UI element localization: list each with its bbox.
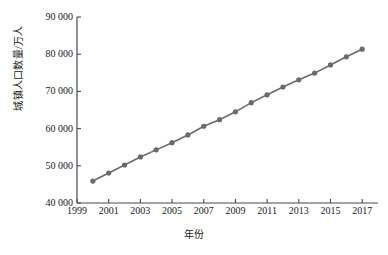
data-point bbox=[154, 147, 159, 152]
x-axis-title: 年份 bbox=[0, 229, 388, 241]
data-point bbox=[169, 140, 174, 145]
data-point bbox=[265, 92, 270, 97]
data-point bbox=[312, 71, 317, 76]
data-point bbox=[249, 100, 254, 105]
data-point bbox=[106, 170, 111, 175]
chart-figure: 城镇人口数量/万人 40 00050 00060 00070 00080 000… bbox=[0, 0, 388, 255]
data-point bbox=[122, 162, 127, 167]
data-point bbox=[296, 77, 301, 82]
axis-lines bbox=[77, 17, 378, 203]
data-point bbox=[201, 124, 206, 129]
x-axis-tick-label: 2017 bbox=[342, 206, 382, 216]
data-point bbox=[185, 132, 190, 137]
data-point bbox=[233, 109, 238, 114]
data-point bbox=[344, 54, 349, 59]
data-point bbox=[360, 47, 365, 52]
data-line bbox=[93, 49, 362, 181]
data-point bbox=[328, 62, 333, 67]
data-point bbox=[280, 84, 285, 89]
data-point bbox=[138, 154, 143, 159]
data-point bbox=[90, 178, 95, 183]
data-point bbox=[217, 117, 222, 122]
x-axis-tick-labels: 1999200120032005200720092011201320152017 bbox=[0, 206, 388, 222]
